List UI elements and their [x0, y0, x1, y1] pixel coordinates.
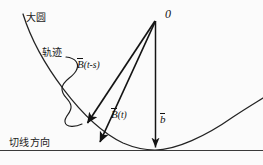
overbar-b-symbol: B [77, 58, 84, 70]
vector-b-t [100, 21, 156, 142]
overbar-b-symbol: B [111, 108, 118, 120]
label-great-circle: 大圆 [26, 13, 47, 23]
label-tangent-direction: 切线方向 [9, 138, 51, 148]
figure-canvas: 大圆 轨迹 切线方向 B(t-s) B(t) b 0 [0, 0, 263, 165]
argument-t: (t) [118, 110, 127, 120]
label-vector-b-t: B(t) [111, 108, 127, 121]
argument-t-minus-s: (t-s) [84, 60, 100, 70]
label-vector-b-t-minus-s: B(t-s) [77, 58, 100, 71]
label-origin-point: 0 [165, 8, 171, 20]
label-vector-b: b [160, 113, 166, 125]
overbar-b-lowercase-symbol: b [160, 113, 166, 125]
label-trajectory: 轨迹 [42, 48, 63, 58]
great-circle-arc [23, 14, 263, 150]
